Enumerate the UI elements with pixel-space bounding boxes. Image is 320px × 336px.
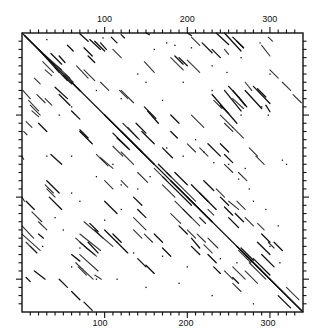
similarity-dot [154,49,155,50]
bottom-tick-label-300: 300 [260,318,275,328]
similarity-dot [150,176,151,177]
similarity-dot [279,262,280,263]
similarity-dot [174,45,175,46]
similarity-dot [253,303,254,304]
similarity-dot [59,114,60,115]
bottom-tick-label-100: 100 [92,318,107,328]
similarity-dot [46,39,47,40]
dot-plot-chart: 100 200 300 100 200 300 [0,0,320,336]
top-tick-label-100: 100 [97,14,112,24]
similarity-dot [195,139,196,140]
similarity-dot [71,266,72,267]
similarity-dot [71,106,72,107]
bottom-tick-label-200: 200 [178,318,193,328]
top-tick-label-300: 300 [262,14,277,24]
similarity-dot [137,188,138,189]
similarity-dot [203,151,204,152]
similarity-dot [112,164,113,165]
similarity-dot [121,209,122,210]
similarity-dot [249,188,250,189]
similarity-dot [166,147,167,148]
similarity-dot [104,219,105,220]
similarity-dot [282,160,283,161]
similarity-dot [96,279,97,280]
similarity-dot [79,247,80,248]
similarity-dot [213,162,214,163]
similarity-dot [178,283,179,284]
similarity-dot [183,155,184,156]
similarity-dot [166,42,167,43]
similarity-dot [133,252,134,253]
similarity-dot [63,229,64,230]
similarity-dot [240,57,241,58]
similarity-dot [96,90,97,91]
similarity-dot [265,209,266,210]
similarity-dot [116,279,117,280]
similarity-dot [54,217,55,218]
similarity-dot [261,106,262,107]
similarity-dot [102,37,103,38]
similarity-dot [268,114,269,115]
similarity-dot [187,266,188,267]
similarity-dot [286,164,287,165]
similarity-dot [238,178,239,179]
similarity-dot [259,42,260,43]
similarity-dot [79,201,80,202]
similarity-dot [121,98,122,99]
similarity-dot [191,47,192,48]
similarity-dot [145,82,146,83]
similarity-dot [220,258,221,259]
similarity-dot [71,192,72,193]
similarity-dot [137,73,138,74]
similarity-dot [42,246,43,247]
similarity-dot [71,155,72,156]
similarity-dot [211,65,212,66]
similarity-dot [228,164,229,165]
similarity-dot [162,100,163,101]
similarity-dot [278,225,279,226]
similarity-dot [145,287,146,288]
similarity-dot [240,114,241,115]
similarity-dot [183,82,184,83]
similarity-dot [211,90,212,91]
similarity-dot [211,295,212,296]
similarity-dot [46,155,47,156]
similarity-dot [121,184,122,185]
top-tick-label-200: 200 [180,14,195,24]
similarity-dot [269,246,270,247]
similarity-dot [162,256,163,257]
similarity-dot [226,72,227,73]
similarity-dot [245,168,246,169]
similarity-dot [269,73,270,74]
similarity-dot [253,201,254,202]
similarity-dot [236,262,237,263]
similarity-dot [96,176,97,177]
